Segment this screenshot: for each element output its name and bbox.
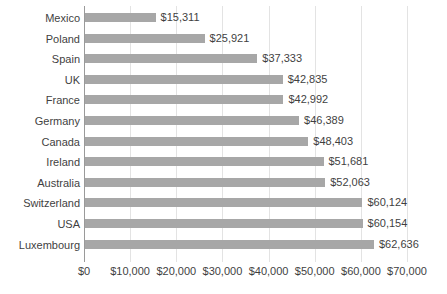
category-label: France [46, 94, 80, 107]
x-axis-tick-label: $20,000 [156, 265, 196, 278]
category-label: Luxembourg [19, 239, 80, 252]
bar [85, 178, 325, 187]
plot-area: Mexico$15,311Poland$25,921Spain$37,333UK… [0, 0, 447, 294]
bar [85, 34, 205, 43]
bar-value-label: $42,835 [288, 73, 328, 86]
x-axis-tick-label: $30,000 [203, 265, 243, 278]
bar-value-label: $51,681 [329, 155, 369, 168]
chart-row: France$42,992 [0, 91, 447, 111]
bar-value-label: $42,992 [288, 93, 328, 106]
bar [85, 116, 299, 125]
category-label: Spain [52, 53, 80, 66]
chart-row: Luxembourg$62,636 [0, 236, 447, 256]
bar-value-label: $15,311 [161, 11, 200, 24]
bar-value-label: $48,403 [313, 135, 353, 148]
bar-value-label: $25,921 [210, 32, 250, 45]
category-label: Canada [41, 136, 80, 149]
chart-row: Switzerland$60,124 [0, 194, 447, 214]
chart-row: Australia$52,063 [0, 174, 447, 194]
chart-row: Poland$25,921 [0, 30, 447, 50]
bar [85, 219, 363, 228]
bar [85, 13, 156, 22]
bar-value-label: $52,063 [330, 176, 370, 189]
bar [85, 75, 283, 84]
x-axis-tick-label: $50,000 [295, 265, 335, 278]
bar [85, 157, 324, 166]
bar [85, 198, 362, 207]
x-axis-tick-label: $60,000 [341, 265, 381, 278]
chart-row: Canada$48,403 [0, 133, 447, 153]
x-axis-tick-label: $70,000 [387, 265, 427, 278]
x-axis-tick-label: $10,000 [110, 265, 150, 278]
bar-chart: Mexico$15,311Poland$25,921Spain$37,333UK… [0, 0, 447, 294]
bar-value-label: $60,154 [368, 217, 408, 230]
category-label: Switzerland [23, 197, 80, 210]
chart-row: USA$60,154 [0, 215, 447, 235]
bar-value-label: $46,389 [304, 114, 344, 127]
bar-value-label: $37,333 [262, 52, 302, 65]
category-label: Mexico [45, 12, 80, 25]
chart-row: Germany$46,389 [0, 112, 447, 132]
bar [85, 95, 283, 104]
x-axis-tick-label: $40,000 [249, 265, 289, 278]
category-label: Poland [46, 33, 80, 46]
bar [85, 54, 257, 63]
category-label: Ireland [46, 156, 80, 169]
category-label: Australia [37, 177, 80, 190]
x-axis-tick-label: $0 [78, 265, 90, 278]
chart-row: Ireland$51,681 [0, 153, 447, 173]
category-label: USA [57, 218, 80, 231]
chart-row: Spain$37,333 [0, 50, 447, 70]
chart-row: UK$42,835 [0, 71, 447, 91]
bar [85, 137, 308, 146]
bar [85, 240, 374, 249]
category-label: UK [65, 74, 80, 87]
bar-value-label: $62,636 [379, 238, 419, 251]
category-label: Germany [35, 115, 80, 128]
bar-value-label: $60,124 [367, 196, 407, 209]
chart-row: Mexico$15,311 [0, 9, 447, 29]
